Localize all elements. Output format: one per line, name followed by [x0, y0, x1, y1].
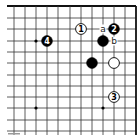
star-point-icon [34, 106, 37, 109]
star-point-icon [34, 39, 37, 42]
caption-fragment [8, 133, 20, 135]
move-number: 4 [44, 37, 50, 46]
black-stone-icon: 2 [109, 24, 120, 35]
move-number: 3 [111, 93, 117, 102]
move-number: 2 [111, 25, 117, 34]
white-stone-icon: 3 [109, 92, 120, 103]
star-point-icon [101, 106, 104, 109]
mark-a: a [100, 24, 107, 34]
black-stone-icon [98, 36, 109, 47]
mark-b: b [111, 36, 118, 46]
move-number: 1 [78, 25, 84, 34]
mark-letter: a [100, 24, 106, 34]
star-points [34, 39, 104, 109]
black-stone-icon [87, 58, 98, 69]
go-board-diagram: ab 1234 [0, 0, 139, 137]
white-stone-icon: 1 [76, 24, 87, 35]
mark-letter: b [111, 36, 117, 46]
white-stone-icon [109, 58, 120, 69]
black-stone-icon: 4 [42, 36, 53, 47]
